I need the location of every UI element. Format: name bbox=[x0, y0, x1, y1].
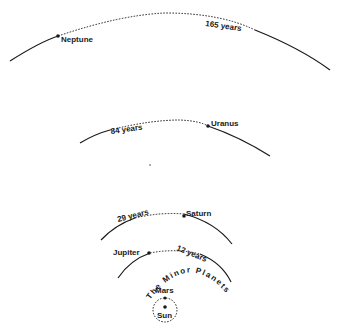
label-saturn-period: 29 years bbox=[116, 207, 150, 224]
print-speck bbox=[149, 164, 151, 166]
planet-uranus-marker bbox=[206, 124, 210, 128]
label-saturn: Saturn bbox=[186, 209, 211, 218]
label-jupiter-period: 12 years bbox=[175, 244, 209, 265]
label-minor-planets: The Minor Planets bbox=[145, 265, 233, 301]
label-sun: Sun bbox=[157, 311, 172, 320]
orbit-neptune: Neptune 165 years bbox=[10, 13, 330, 70]
label-neptune-period: 165 years bbox=[205, 19, 243, 33]
planet-mars-marker bbox=[164, 297, 167, 300]
planet-jupiter-marker bbox=[147, 251, 151, 255]
planet-neptune-marker bbox=[56, 34, 60, 38]
label-mars: Mars bbox=[155, 286, 174, 295]
sun-marker bbox=[163, 305, 167, 309]
label-neptune: Neptune bbox=[61, 35, 94, 44]
solar-system-orbit-diagram: Neptune 165 years Uranus 84 years Saturn… bbox=[0, 0, 343, 327]
orbit-uranus: Uranus 84 years bbox=[80, 119, 270, 156]
label-uranus: Uranus bbox=[211, 119, 239, 128]
label-jupiter: Jupiter bbox=[113, 248, 140, 257]
label-uranus-period: 84 years bbox=[110, 123, 144, 136]
label-minor-planets-text: The Minor Planets bbox=[145, 265, 233, 301]
sun: Sun bbox=[157, 305, 172, 320]
orbit-saturn: Saturn 29 years bbox=[101, 207, 232, 244]
